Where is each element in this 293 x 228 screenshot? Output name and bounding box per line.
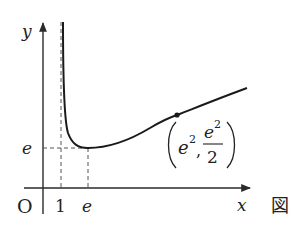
point-y-num-exp: 2 <box>214 118 221 131</box>
point-y-num-base: e <box>204 122 214 142</box>
point-label: e 2 , e 2 2 <box>169 118 235 168</box>
origin-label: O <box>17 195 33 217</box>
point-y-den: 2 <box>207 147 218 167</box>
left-paren <box>169 122 177 168</box>
y-axis-label: y <box>21 21 32 41</box>
y-tick-e: e <box>22 138 32 158</box>
point-x-exp: 2 <box>189 133 196 146</box>
figure-caption: 図 <box>271 195 289 216</box>
marked-point <box>174 112 179 117</box>
right-paren <box>227 122 235 168</box>
point-comma: , <box>196 141 201 160</box>
x-tick-1: 1 <box>55 196 66 216</box>
function-graph: y x O 1 e e e 2 , e 2 2 図 <box>0 0 293 228</box>
x-tick-e: e <box>82 196 92 216</box>
x-axis-label: x <box>237 195 247 215</box>
point-x-base: e <box>178 137 189 158</box>
